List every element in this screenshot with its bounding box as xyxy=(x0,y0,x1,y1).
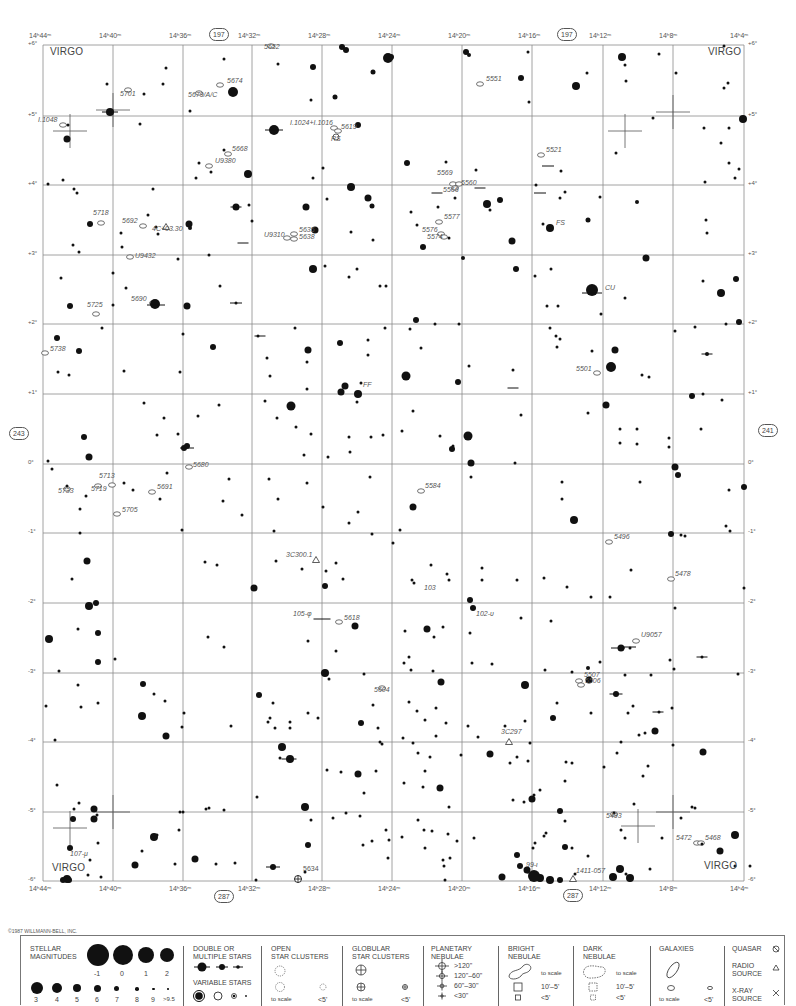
star-icon xyxy=(691,806,694,809)
legend-open-small: <5' xyxy=(318,996,327,1003)
star-icon xyxy=(388,839,391,842)
globular-cluster-label: 5634 xyxy=(303,865,319,872)
star-icon xyxy=(370,204,375,209)
star-icon xyxy=(143,93,146,96)
star-icon xyxy=(266,357,269,360)
legend-dark-row: to scale xyxy=(616,970,637,976)
star-icon xyxy=(45,635,53,643)
star-icon xyxy=(322,583,328,589)
variable-star-label: FF xyxy=(363,381,372,388)
legend-divider xyxy=(650,946,651,1006)
star-icon xyxy=(736,319,742,325)
star-icon xyxy=(205,808,208,811)
page-ref-top[interactable]: 197 xyxy=(209,28,229,41)
star-icon xyxy=(606,362,616,372)
star-icon xyxy=(223,58,226,61)
page-ref-bottom-right[interactable]: 287 xyxy=(563,889,583,902)
galaxy-icon xyxy=(206,164,213,168)
galaxy-icon xyxy=(114,512,121,516)
radio-source-icon xyxy=(506,739,513,745)
star-icon xyxy=(706,232,709,235)
galaxy-icon xyxy=(140,224,147,228)
star-icon xyxy=(359,815,362,818)
star-icon xyxy=(150,833,158,841)
legend-divider xyxy=(261,946,262,1006)
star-icon xyxy=(534,275,537,278)
star-icon xyxy=(544,669,547,672)
star-icon xyxy=(458,323,461,326)
galaxy-label: 5604 xyxy=(374,686,390,693)
page-ref-left[interactable]: 243 xyxy=(9,427,29,440)
star-icon xyxy=(184,303,191,310)
star-icon xyxy=(410,669,413,672)
star-icon xyxy=(514,462,517,465)
star-icon xyxy=(371,533,374,536)
legend-open-to-scale: to scale xyxy=(271,996,292,1002)
legend-galaxies-small: <5' xyxy=(704,996,713,1003)
star-icon xyxy=(132,489,135,492)
star-icon xyxy=(73,188,76,191)
star-icon xyxy=(371,70,376,75)
legend-bright-row: 10'–5' xyxy=(541,983,559,990)
star-icon xyxy=(230,725,233,728)
galaxy-label: 5719 xyxy=(91,485,107,492)
dec-tick-label-left: -3° xyxy=(28,668,36,674)
star-icon xyxy=(215,863,218,866)
star-icon xyxy=(675,72,678,75)
page-ref-top-right[interactable]: 197 xyxy=(557,28,577,41)
star-icon xyxy=(403,782,406,785)
galaxy-label: 5733 xyxy=(58,487,74,494)
star-icon xyxy=(564,780,567,783)
star-icon xyxy=(523,801,526,804)
galaxy-icon xyxy=(291,232,298,236)
star-icon xyxy=(306,361,309,364)
star-icon xyxy=(223,646,226,649)
ra-tick-label-bottom: 14ʰ12ᵐ xyxy=(589,885,611,892)
star-icon xyxy=(489,209,492,212)
star-icon xyxy=(437,206,440,209)
legend-divider xyxy=(183,946,184,1006)
star-icon xyxy=(652,728,659,735)
star-icon xyxy=(289,727,292,730)
star-icon xyxy=(139,123,142,126)
star-icon xyxy=(362,844,365,847)
star-icon xyxy=(561,498,564,501)
star-icon xyxy=(60,877,66,883)
constellation-label: VIRGO xyxy=(708,46,741,57)
star-icon xyxy=(404,630,407,633)
star-icon xyxy=(156,434,159,437)
star-icon xyxy=(737,673,740,676)
variable-star-label: FS xyxy=(556,219,565,226)
star-icon xyxy=(648,376,651,379)
star-icon xyxy=(56,784,59,787)
star-icon xyxy=(324,265,327,268)
galaxy-label: U9432 xyxy=(135,252,156,259)
star-icon xyxy=(101,327,104,330)
star-icon xyxy=(377,727,380,730)
page-ref-bottom[interactable]: 287 xyxy=(214,890,234,903)
galaxy-label: 5493 xyxy=(606,812,622,819)
star-icon xyxy=(561,481,564,484)
star-icon xyxy=(181,726,184,729)
star-icon xyxy=(57,371,60,374)
star-icon xyxy=(727,82,730,85)
star-icon xyxy=(514,852,520,858)
galaxy-label: 5506 xyxy=(585,677,601,684)
mag-label: 9 xyxy=(151,996,155,1003)
star-icon xyxy=(112,272,115,275)
star-icon xyxy=(460,754,463,757)
page-ref-right[interactable]: 241 xyxy=(758,424,778,437)
star-icon xyxy=(633,803,636,806)
star-icon xyxy=(310,433,313,436)
legend-misc: QUASAR RADIO SOURCE X-RAY SOURCE xyxy=(727,936,785,1006)
star-icon xyxy=(527,760,530,763)
star-icon xyxy=(345,812,348,815)
star-icon xyxy=(550,620,553,623)
galaxy-icon xyxy=(668,577,675,581)
star-icon xyxy=(294,327,297,330)
variable-star-label: CU xyxy=(605,284,615,291)
star-icon xyxy=(520,414,523,417)
named-star-label: 103 xyxy=(424,584,436,591)
mag-dot xyxy=(135,987,139,991)
star-icon xyxy=(483,200,491,208)
